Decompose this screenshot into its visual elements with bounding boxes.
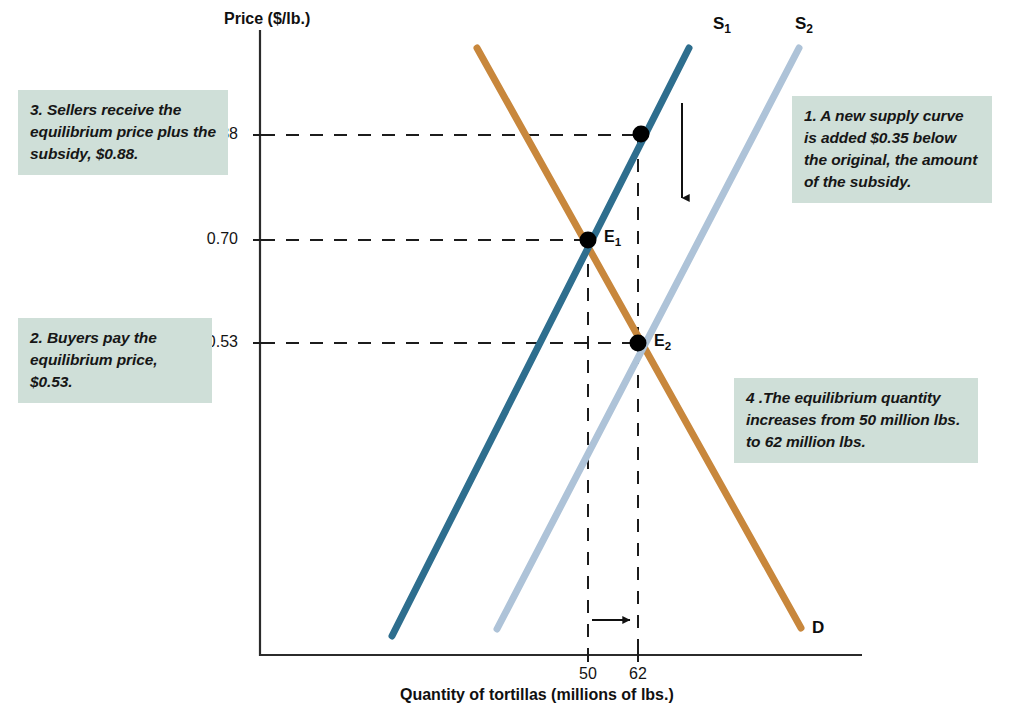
y-axis-title: Price ($/lb.) <box>224 10 310 28</box>
point-label-e1-subscript: 1 <box>615 236 621 248</box>
y-tick-label-070: 0.70 <box>186 230 238 248</box>
callout-equilibrium-quantity: 4 .The equilibrium quantity increases fr… <box>734 378 978 463</box>
point-label-e1: E1 <box>604 228 621 248</box>
curve-label-d: D <box>812 618 824 638</box>
dot-equilibrium-e1 <box>580 232 597 249</box>
curve-label-s2-text: S <box>795 14 806 33</box>
point-label-e2: E2 <box>654 332 671 352</box>
dot-equilibrium-e2 <box>630 335 647 352</box>
callout-sellers-receive: 3. Sellers receive the equilibrium price… <box>18 90 228 175</box>
point-label-e2-subscript: 2 <box>665 340 671 352</box>
point-label-e2-text: E <box>654 332 665 349</box>
point-label-e1-text: E <box>604 228 615 245</box>
callout-new-supply-curve: 1. A new supply curve is added $0.35 bel… <box>792 96 992 203</box>
x-axis-title: Quantity of tortillas (millions of lbs.) <box>400 686 674 704</box>
curve-label-s1-text: S <box>713 14 724 33</box>
subsidy-supply-demand-figure: Price ($/lb.) Quantity of tortillas (mil… <box>0 0 1011 716</box>
curve-label-s1: S1 <box>713 14 731 36</box>
curve-label-s2-subscript: 2 <box>806 22 813 36</box>
callout-buyers-pay: 2. Buyers pay the equilibrium price, $0.… <box>18 318 212 403</box>
dot-seller-price-088 <box>633 126 650 143</box>
curve-label-s2: S2 <box>795 14 813 36</box>
x-tick-label-62: 62 <box>618 665 658 683</box>
x-tick-label-50: 50 <box>568 665 608 683</box>
curve-label-s1-subscript: 1 <box>724 22 731 36</box>
